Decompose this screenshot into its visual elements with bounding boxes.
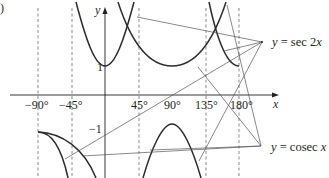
x-tick-180: 180° xyxy=(230,99,253,111)
pointer-origin-sec xyxy=(261,41,263,43)
y-axis-label: y xyxy=(95,4,100,16)
pointer-sec-2 xyxy=(224,42,262,51)
x-tick-minus-90: −90° xyxy=(25,99,49,111)
pointer-lines xyxy=(65,5,262,161)
y-tick-1: 1 xyxy=(97,61,103,73)
x-axis-label: x xyxy=(273,98,278,110)
x-tick-45: 45° xyxy=(131,99,148,111)
x-tick-135: 135° xyxy=(195,99,218,111)
x-tick-minus-45: −45° xyxy=(59,99,83,111)
cosecx-branch-positive xyxy=(118,2,226,66)
label-cosecx: y = cosec x xyxy=(271,141,326,154)
y-axis-arrow-icon xyxy=(103,7,108,14)
x-tick-90: 90° xyxy=(164,99,181,111)
pointer-sec-1 xyxy=(137,17,262,42)
y-tick-minus-1: −1 xyxy=(89,123,102,135)
label-cosecx-var: x xyxy=(321,140,327,154)
label-sec2x-eq: = sec 2 xyxy=(278,35,317,49)
label-cosecx-eq: = cosec xyxy=(277,140,321,154)
label-sec2x: y = sec 2x xyxy=(272,36,322,49)
label-sec2x-var: x xyxy=(316,35,322,49)
part-label: ) xyxy=(0,2,4,14)
curves xyxy=(38,2,239,178)
pointer-cosec-3 xyxy=(82,146,261,156)
